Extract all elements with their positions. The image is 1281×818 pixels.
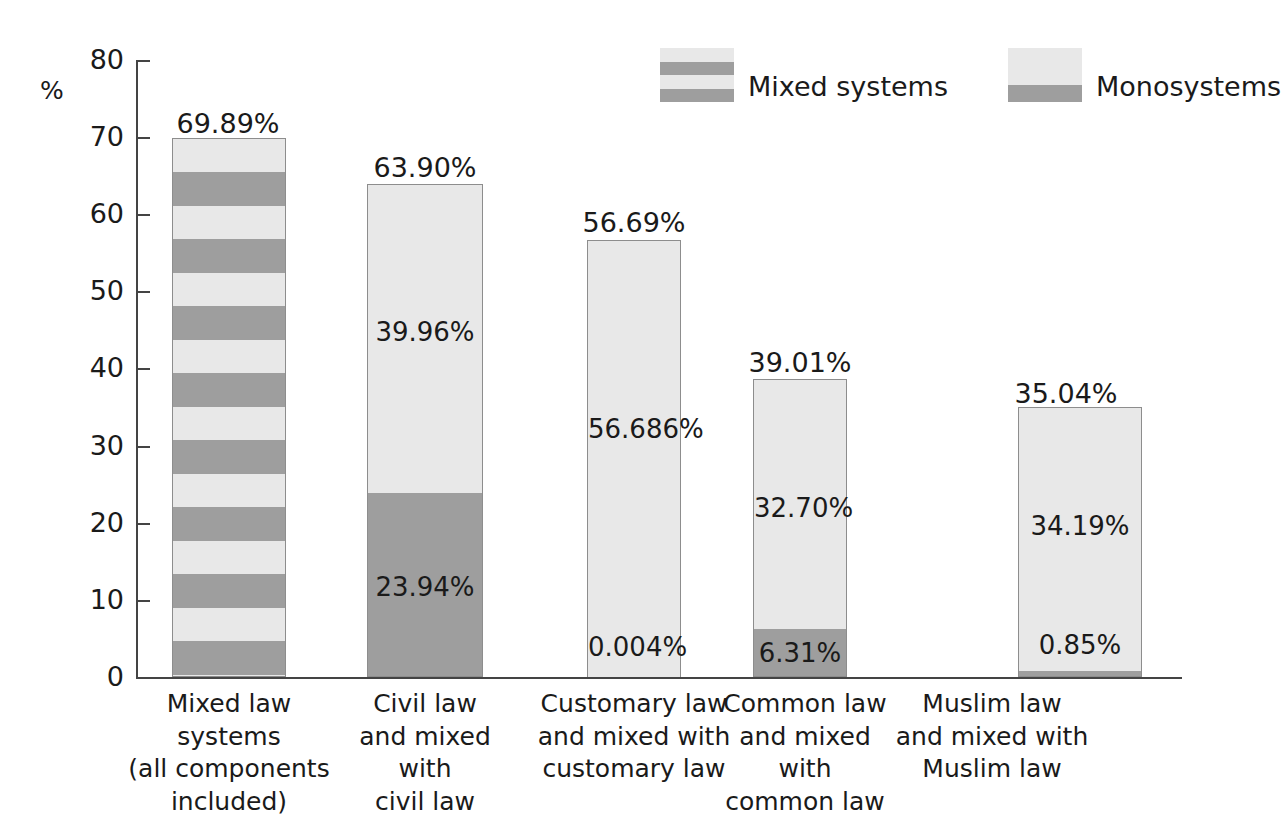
split-swatch-icon [1008, 48, 1082, 102]
y-tick-mark-50 [136, 291, 150, 293]
bar-segment-mixed-2: 39.96% [368, 185, 482, 493]
x-category-label-4: Common law and mixed with common law [710, 688, 900, 818]
y-tick-label-10: 10 [44, 586, 124, 613]
bar-value-mixed-3: 56.686% [588, 414, 680, 444]
bar-segment-striped-1 [173, 139, 285, 676]
y-tick-label-40: 40 [44, 354, 124, 381]
y-tick-label-0: 0 [44, 663, 124, 690]
x-category-line-2-1: Civil law [330, 688, 520, 721]
legend-label-monosystems: Monosystems [1096, 73, 1281, 102]
bar-mixed-law-systems[interactable] [172, 138, 286, 677]
x-category-line-5-2: and mixed with [892, 721, 1092, 754]
x-category-line-4-1: Common law [710, 688, 900, 721]
x-category-line-4-2: and mixed with [710, 721, 900, 786]
x-category-line-1-2: (all components [124, 753, 334, 786]
bar-value-mixed-4: 32.70% [754, 493, 846, 523]
x-axis-line [136, 677, 1182, 679]
y-tick-label-60: 60 [44, 200, 124, 227]
bar-segment-mono-4: 6.31% [754, 629, 846, 676]
y-tick-label-50: 50 [44, 277, 124, 304]
bar-segment-mixed-3: 56.686% [588, 241, 680, 677]
x-category-label-2: Civil law and mixed with civil law [330, 688, 520, 818]
bar-value-mixed-5: 34.19% [1019, 511, 1141, 541]
y-tick-mark-60 [136, 214, 150, 216]
legend-item-monosystems[interactable]: Monosystems [1008, 48, 1281, 102]
y-tick-mark-80 [136, 60, 150, 62]
y-tick-label-30: 30 [44, 432, 124, 459]
bar-value-mono-2: 23.94% [368, 572, 482, 602]
x-category-line-1-1: Mixed law systems [124, 688, 334, 753]
x-category-line-5-1: Muslim law [892, 688, 1092, 721]
y-tick-label-80: 80 [44, 46, 124, 73]
x-category-line-1-3: included) [124, 786, 334, 818]
bar-segment-mono-5 [1019, 671, 1141, 676]
x-category-label-1: Mixed law systems (all components includ… [124, 688, 334, 818]
x-category-line-4-3: common law [710, 786, 900, 818]
legend-item-mixed-systems[interactable]: Mixed systems [660, 48, 948, 102]
legend-label-mixed-systems: Mixed systems [748, 73, 948, 102]
x-category-line-2-3: civil law [330, 786, 520, 818]
y-tick-label-70: 70 [44, 123, 124, 150]
bar-total-label-2: 63.90% [356, 152, 494, 183]
bar-total-label-3: 56.69% [572, 207, 696, 238]
y-axis-unit-label: % [40, 76, 64, 105]
y-tick-mark-10 [136, 600, 150, 602]
y-tick-label-20: 20 [44, 509, 124, 536]
y-tick-mark-70 [136, 137, 150, 139]
y-tick-mark-20 [136, 523, 150, 525]
bar-segment-mono-2: 23.94% [368, 493, 482, 676]
bar-total-label-4: 39.01% [742, 347, 858, 378]
bar-value-mono-4: 6.31% [754, 638, 846, 668]
bar-value-mixed-2: 39.96% [368, 317, 482, 347]
x-category-line-2-2: and mixed with [330, 721, 520, 786]
bar-total-label-1: 69.89% [160, 108, 296, 139]
y-tick-mark-40 [136, 368, 150, 370]
bar-civil-law[interactable]: 39.96% 23.94% [367, 184, 483, 677]
y-tick-mark-30 [136, 446, 150, 448]
bar-segment-mixed-5: 34.19% [1019, 408, 1141, 671]
bar-segment-mixed-4: 32.70% [754, 380, 846, 629]
x-category-line-5-3: Muslim law [892, 753, 1092, 786]
bar-muslim-law[interactable]: 34.19% 0.85% [1018, 407, 1142, 677]
striped-swatch-icon [660, 48, 734, 102]
bar-total-label-5: 35.04% [1006, 378, 1126, 409]
bar-customary-law[interactable]: 56.686% 0.004% [587, 240, 681, 677]
legend: Mixed systems Monosystems [660, 48, 1281, 102]
x-category-label-5: Muslim law and mixed with Muslim law [892, 688, 1092, 786]
bar-common-law[interactable]: 32.70% 6.31% [753, 379, 847, 677]
